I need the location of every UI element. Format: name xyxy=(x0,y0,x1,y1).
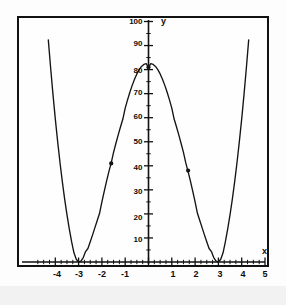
y-tick-label: 80 xyxy=(134,67,143,75)
y-tick-label: 70 xyxy=(134,89,143,97)
y-tick-label: 100 xyxy=(129,18,142,26)
x-tick-label: -4 xyxy=(53,270,61,279)
x-tick-label: 3 xyxy=(217,270,222,279)
x-tick-label: 2 xyxy=(193,270,198,279)
y-tick-label: 20 xyxy=(134,214,143,222)
figure-container: 100908070605040302010 -4-3-2-112345 y x xyxy=(0,0,286,305)
x-tick-label: 1 xyxy=(170,270,175,279)
x-tick-label: -2 xyxy=(98,270,106,279)
y-tick-label: 40 xyxy=(134,164,143,172)
y-tick-label: 50 xyxy=(134,138,143,146)
x-tick-label: 4 xyxy=(240,270,245,279)
y-axis-title: y xyxy=(161,16,166,26)
plot-frame xyxy=(17,16,269,267)
y-tick-label: 60 xyxy=(134,113,143,121)
x-tick-label: -3 xyxy=(75,270,83,279)
x-tick-label: -1 xyxy=(121,270,129,279)
x-axis-title: x xyxy=(262,246,267,256)
y-tick-label: 30 xyxy=(134,188,143,196)
scan-margin xyxy=(0,286,286,305)
y-tick-label: 10 xyxy=(134,236,143,244)
x-tick-label: 5 xyxy=(262,270,267,279)
y-tick-label: 90 xyxy=(134,40,143,48)
